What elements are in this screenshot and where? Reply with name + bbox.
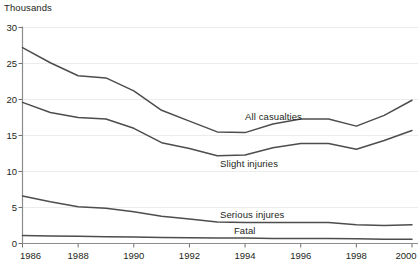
- series-label-all-casualties: All casualties: [245, 111, 302, 122]
- y-tick-label: 0: [1, 238, 17, 249]
- plot-area: [0, 0, 420, 268]
- y-tick-label: 20: [1, 94, 17, 105]
- x-tick-label: 1990: [120, 250, 148, 261]
- x-tick-label: 1986: [17, 250, 45, 261]
- x-tick-marks: [23, 244, 413, 248]
- y-tick-label: 15: [1, 130, 17, 141]
- x-tick-label: 1996: [287, 250, 315, 261]
- x-tick-label: 1988: [64, 250, 92, 261]
- series-line-serious-injures: [23, 196, 413, 226]
- y-tick-label: 10: [1, 166, 17, 177]
- series-lines: [23, 48, 413, 240]
- line-chart: Thousands 051015202530 19861988199019921…: [0, 0, 420, 268]
- series-line-slight-injuries: [23, 102, 413, 155]
- series-label-slight-injuries: Slight injuries: [220, 158, 278, 169]
- x-tick-label: 2000: [392, 250, 420, 261]
- series-line-all-casualties: [23, 48, 413, 133]
- series-line-fatal: [23, 236, 413, 240]
- x-tick-label: 1998: [342, 250, 370, 261]
- y-tick-label: 30: [1, 22, 17, 33]
- x-tick-label: 1994: [231, 250, 259, 261]
- series-label-serious-injures: Serious injures: [220, 209, 284, 220]
- x-tick-label: 1992: [175, 250, 203, 261]
- y-tick-label: 5: [1, 202, 17, 213]
- series-label-fatal: Fatal: [234, 225, 256, 236]
- y-tick-label: 25: [1, 58, 17, 69]
